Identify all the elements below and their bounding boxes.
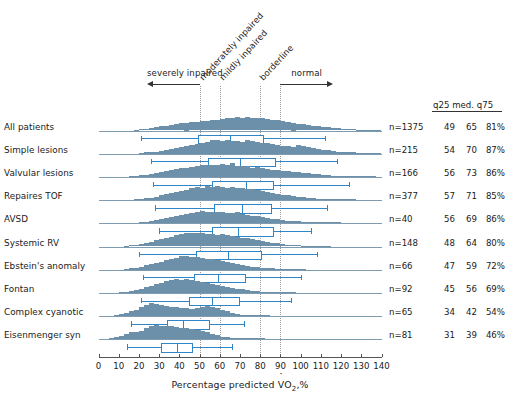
row-label-repaires-tof: Repaires TOF <box>4 191 63 201</box>
boxplot-whisker-cap-high <box>337 159 338 165</box>
boxplot-median <box>238 227 239 236</box>
stat-n-fontan: n=92 <box>389 284 413 294</box>
stat-q75-simple-lesions: 87% <box>465 145 505 155</box>
boxplot-whisker-cap-high <box>301 275 302 281</box>
row-baseline <box>99 200 382 201</box>
row-baseline <box>99 131 382 132</box>
row-baseline <box>99 177 382 178</box>
row-label-eisenmenger-syn: Eisenmenger syn <box>4 330 81 340</box>
x-axis-title-o: O <box>284 379 292 390</box>
boxplot-whisker-cap-high <box>327 205 328 211</box>
boxplot-whisker-cap-high <box>317 252 318 258</box>
row-label-simple-lesions: Simple lesions <box>4 145 68 155</box>
x-axis-tick-0 <box>99 354 100 357</box>
boxplot-whisker-cap-high <box>244 321 245 327</box>
histogram-bar <box>376 130 381 131</box>
x-axis-title: Percentage predicted VO2,% <box>99 379 382 393</box>
boxplot-box <box>189 297 240 307</box>
x-axis-tick-100 <box>301 354 302 357</box>
stat-q75-all-patients: 81% <box>465 122 505 132</box>
boxplot-whisker-cap-high <box>311 228 312 234</box>
boxplot-whisker-cap-low <box>127 344 128 350</box>
x-axis-tick-130 <box>361 354 362 357</box>
row-baseline <box>99 316 382 317</box>
histogram-bar <box>265 315 270 316</box>
boxplot-whisker-cap-low <box>139 252 140 258</box>
histogram-bar <box>326 246 331 247</box>
stat-n-avsd: n=40 <box>389 214 413 224</box>
stat-q75-avsd: 86% <box>465 214 505 224</box>
x-axis-tick-30 <box>159 354 160 357</box>
row-label-complex-cyanotic: Complex cyanotic <box>4 307 83 317</box>
x-axis-tick-80 <box>260 354 261 357</box>
x-axis-tick-90 <box>280 354 281 357</box>
stat-n-complex-cyanotic: n=65 <box>389 307 413 317</box>
stat-n-systemic-rv: n=148 <box>389 238 418 248</box>
row-baseline <box>99 293 382 294</box>
boxplot-median <box>228 251 229 260</box>
figure-root: severely inpairedmoderately inpairedmild… <box>0 0 509 404</box>
boxplot-median <box>242 204 243 213</box>
boxplot-whisker-cap-low <box>153 182 154 188</box>
x-axis-tick-10 <box>119 354 120 357</box>
boxplot-median <box>212 297 213 306</box>
stat-n-ebstein-s-anomaly: n=66 <box>389 261 413 271</box>
x-axis-ticklabel-140: 140 <box>368 361 396 371</box>
boxplot-median <box>240 158 241 167</box>
boxplot-whisker-cap-high <box>291 298 292 304</box>
stats-header: q25 med. q75 <box>433 100 493 110</box>
x-axis-line <box>99 357 382 358</box>
stat-n-repaires-tof: n=377 <box>389 191 418 201</box>
row-baseline <box>99 154 382 155</box>
stat-n-simple-lesions: n=215 <box>389 145 418 155</box>
x-axis-title-v-dot: V <box>278 379 285 390</box>
row-label-valvular-lesions: Valvular lesions <box>4 168 73 178</box>
stat-q75-systemic-rv: 80% <box>465 238 505 248</box>
row-baseline <box>99 247 382 248</box>
histogram-bar <box>336 222 341 223</box>
boxplot-whisker-cap-low <box>155 205 156 211</box>
x-axis-tick-40 <box>179 354 180 357</box>
x-axis-tick-140 <box>382 354 383 357</box>
stat-q75-repaires-tof: 85% <box>465 191 505 201</box>
histogram-bar <box>351 199 356 200</box>
histogram-bar <box>260 338 265 339</box>
x-axis-tick-50 <box>200 354 201 357</box>
row-label-ebstein-s-anomaly: Ebstein's anomaly <box>4 261 85 271</box>
stats-header-rule <box>432 111 502 112</box>
boxplot-whisker-cap-high <box>325 136 326 142</box>
row-label-all-patients: All patients <box>4 122 54 132</box>
annotation-label-severely-inpaired: severely inpaired <box>147 68 200 78</box>
histogram-bar <box>301 269 306 270</box>
annotation-arrow-left <box>153 84 200 85</box>
row-baseline <box>99 270 382 271</box>
x-axis-tick-60 <box>220 354 221 357</box>
x-axis-tick-120 <box>341 354 342 357</box>
stat-q75-eisenmenger-syn: 46% <box>465 330 505 340</box>
stat-n-eisenmenger-syn: n=81 <box>389 330 413 340</box>
boxplot-whisker-cap-low <box>141 136 142 142</box>
annotation-label-normal: normal <box>280 68 333 78</box>
boxplot-whisker-cap-low <box>159 228 160 234</box>
stats-header-q75: q75 <box>477 100 493 110</box>
row-label-fontan: Fontan <box>4 284 34 294</box>
boxplot-median <box>218 274 219 283</box>
histogram-bar <box>376 153 381 154</box>
row-label-systemic-rv: Systemic RV <box>4 238 59 248</box>
row-baseline <box>99 339 382 340</box>
histogram-bar <box>291 292 296 293</box>
boxplot-whisker-cap-low <box>151 159 152 165</box>
x-axis-tick-20 <box>139 354 140 357</box>
x-axis-tick-70 <box>240 354 241 357</box>
stat-q75-fontan: 69% <box>465 284 505 294</box>
x-axis-title-text: Percentage predicted <box>171 379 277 390</box>
boxplot-whisker-cap-low <box>141 298 142 304</box>
boxplot-whisker-cap-low <box>131 321 132 327</box>
stats-header-q25: q25 <box>433 100 449 110</box>
stat-q75-ebstein-s-anomaly: 72% <box>465 261 505 271</box>
stat-n-valvular-lesions: n=166 <box>389 168 418 178</box>
boxplot-whisker-cap-high <box>349 182 350 188</box>
annotation-arrow-right <box>280 84 327 85</box>
boxplot-median <box>177 343 178 352</box>
boxplot-whisker-cap-high <box>232 344 233 350</box>
